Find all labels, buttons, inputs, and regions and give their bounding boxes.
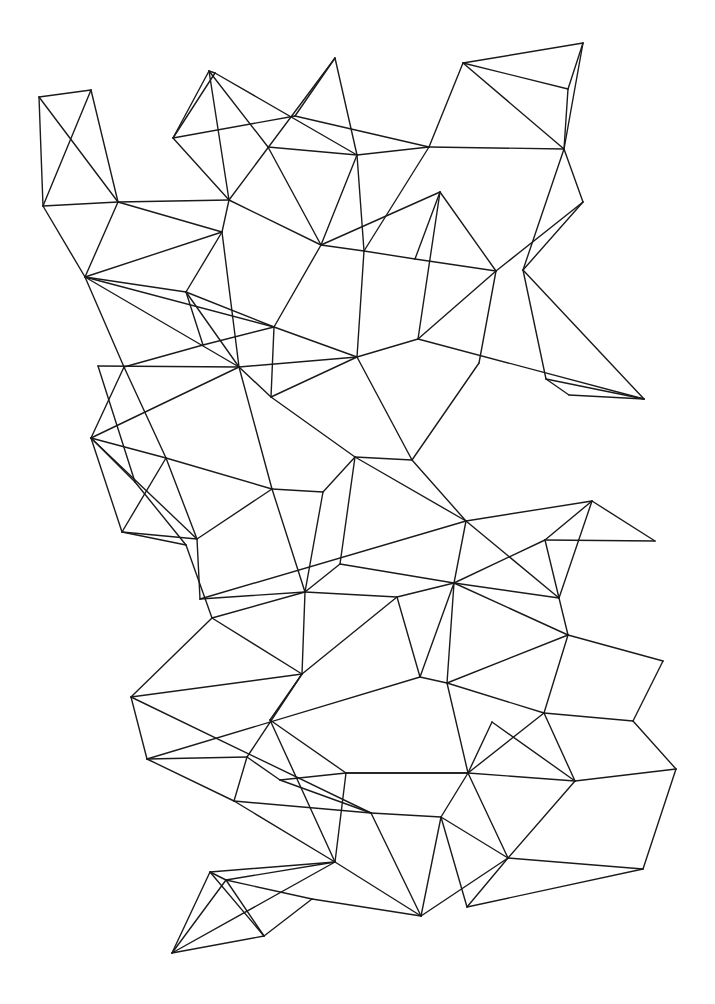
mesh-edge: [545, 540, 655, 541]
wireframe-mesh-canvas: [0, 0, 715, 1004]
background: [0, 0, 715, 1004]
mesh-edge: [98, 366, 239, 367]
